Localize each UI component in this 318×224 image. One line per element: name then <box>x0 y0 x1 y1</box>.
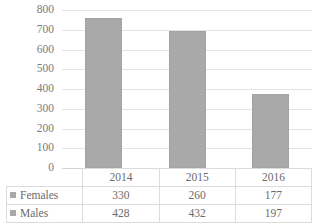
y-axis: 8007006005004003002001000 <box>0 0 58 170</box>
y-axis-tick-label: 600 <box>37 44 54 56</box>
y-axis-tick-label: 500 <box>37 64 54 76</box>
bar-2016 <box>252 94 289 168</box>
table-value-cell: 197 <box>235 205 311 223</box>
data-table: 201420152016Females330260177Males4284321… <box>6 168 312 223</box>
y-axis-tick-label: 800 <box>37 4 54 16</box>
plot-area: 8007006005004003002001000 <box>0 0 318 170</box>
legend-swatch-icon <box>10 210 16 216</box>
table-row: Females330260177 <box>7 187 312 205</box>
y-axis-tick-label: 400 <box>37 83 54 95</box>
y-axis-tick-label: 200 <box>37 123 54 135</box>
legend-entry-females[interactable]: Females <box>7 187 83 205</box>
table-header-row: 201420152016 <box>7 169 312 187</box>
bar-2014 <box>85 18 122 168</box>
legend-label: Males <box>20 208 48 220</box>
legend-swatch-icon <box>10 192 16 198</box>
y-axis-tick-label: 700 <box>37 24 54 36</box>
table-value-cell: 428 <box>83 205 159 223</box>
table-corner-cell <box>7 169 83 187</box>
bar-chart-with-data-table: 8007006005004003002001000 201420152016Fe… <box>0 0 318 224</box>
table-value-cell: 330 <box>83 187 159 205</box>
y-axis-tick-label: 300 <box>37 103 54 115</box>
table-row: Males428432197 <box>7 205 312 223</box>
table-value-cell: 260 <box>159 187 235 205</box>
data-table-body: 201420152016Females330260177Males4284321… <box>7 169 312 223</box>
bar-2015 <box>169 31 206 168</box>
category-header-cell: 2014 <box>83 169 159 187</box>
category-header-cell: 2015 <box>159 169 235 187</box>
bars-layer <box>62 0 312 170</box>
y-axis-tick-label: 100 <box>37 143 54 155</box>
legend-entry-males[interactable]: Males <box>7 205 83 223</box>
category-header-cell: 2016 <box>235 169 311 187</box>
table-value-cell: 177 <box>235 187 311 205</box>
table-value-cell: 432 <box>159 205 235 223</box>
legend-label: Females <box>20 190 58 202</box>
